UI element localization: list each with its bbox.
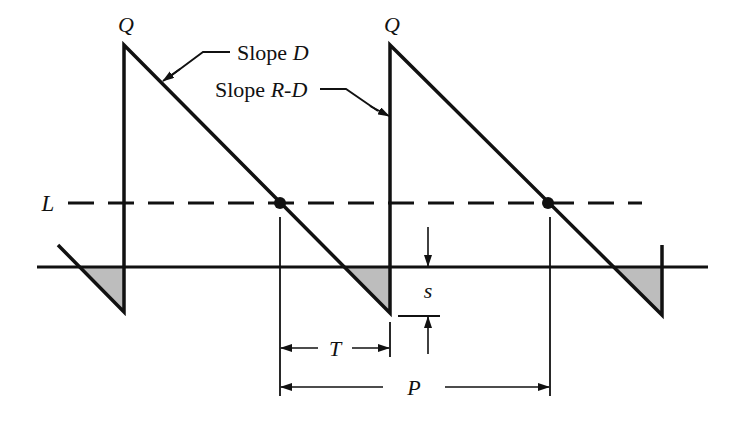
order-quantity-label-1: Q — [118, 12, 134, 37]
period-label: P — [406, 375, 420, 400]
slope-d-label: Slope D — [237, 40, 309, 65]
slope-rd-prefix: Slope — [215, 77, 271, 102]
reorder-point-2 — [542, 197, 554, 209]
slope-d-leader — [168, 52, 230, 78]
slope-rd-variable: R-D — [270, 77, 308, 102]
inventory-diagram: T P s L Q Q Slope D Slope R-D — [0, 0, 738, 422]
reorder-level-label: L — [41, 191, 55, 216]
reorder-point-1 — [274, 197, 286, 209]
slope-rd-arrow — [370, 106, 389, 116]
lead-time-label: T — [329, 336, 343, 361]
slope-rd-leader — [320, 89, 378, 111]
slope-rd-label: Slope R-D — [215, 77, 307, 102]
slope-d-variable: D — [292, 40, 309, 65]
order-quantity-label-2: Q — [384, 12, 400, 37]
slope-d-prefix: Slope — [237, 40, 293, 65]
safety-stock-label: s — [424, 278, 433, 303]
slope-d-arrow — [163, 69, 180, 81]
